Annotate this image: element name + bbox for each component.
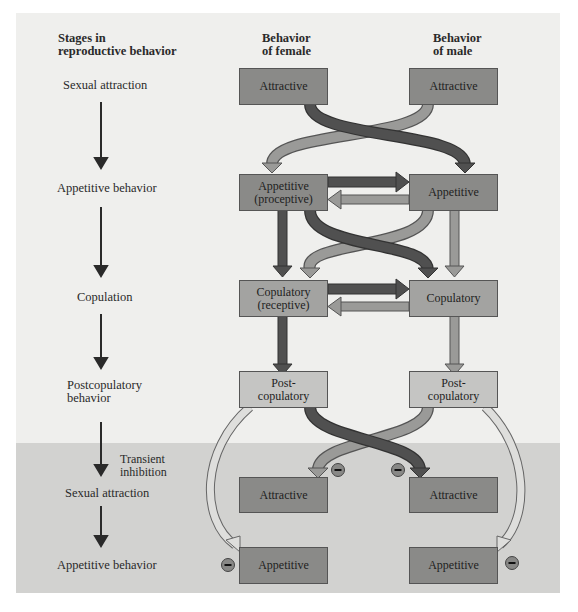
- male-attractive-label: Attractive: [430, 80, 478, 93]
- male-copulatory-label: Copulatory: [427, 292, 481, 305]
- male-attractive-inhibited-box: Attractive: [409, 477, 498, 513]
- female-attractive-inhibited-box: Attractive: [239, 477, 328, 513]
- male-postcopulatory-box: Post- copulatory: [409, 371, 498, 408]
- male-attractive-inhibited-label: Attractive: [430, 489, 478, 502]
- female-postcopulatory-box: Post- copulatory: [239, 371, 328, 408]
- female-attractive-box: Attractive: [239, 68, 328, 105]
- female-copulatory-label: Copulatory: [257, 286, 311, 299]
- male-appetitive-label: Appetitive: [428, 186, 479, 199]
- female-appetitive-inhibited-label: Appetitive: [258, 559, 309, 572]
- male-appetitive-box: Appetitive: [409, 174, 498, 211]
- female-postcopulatory-label: Post-: [258, 377, 309, 390]
- male-postcopulatory-sublabel: copulatory: [428, 390, 479, 403]
- stage-arrows: [95, 102, 107, 546]
- male-copulatory-box: Copulatory: [409, 280, 498, 317]
- female-appetitive-inhibited-box: Appetitive: [239, 547, 328, 584]
- female-attractive-label: Attractive: [260, 80, 308, 93]
- female-appetitive-box: Appetitive (proceptive): [239, 174, 328, 211]
- female-copulatory-sublabel: (receptive): [257, 299, 311, 312]
- male-appetitive-inhibited-label: Appetitive: [428, 559, 479, 572]
- female-appetitive-sublabel: (proceptive): [254, 193, 313, 206]
- male-attractive-box: Attractive: [409, 68, 498, 105]
- female-attractive-inhibited-label: Attractive: [260, 489, 308, 502]
- female-postcopulatory-sublabel: copulatory: [258, 390, 309, 403]
- male-appetitive-inhibited-box: Appetitive: [409, 547, 498, 584]
- female-copulatory-box: Copulatory (receptive): [239, 280, 328, 317]
- female-appetitive-label: Appetitive: [254, 180, 313, 193]
- male-postcopulatory-label: Post-: [428, 377, 479, 390]
